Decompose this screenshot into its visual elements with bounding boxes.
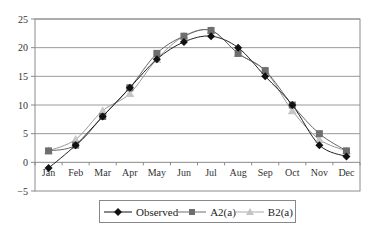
y-tick-label: 0 bbox=[23, 157, 28, 168]
y-tick-label: 5 bbox=[23, 128, 28, 139]
y-tick-label: 20 bbox=[18, 42, 28, 53]
x-tick-label: Aug bbox=[230, 167, 247, 178]
data-point bbox=[45, 147, 52, 154]
y-tick-label: 25 bbox=[18, 14, 28, 25]
x-tick-label: Sep bbox=[258, 167, 273, 178]
x-tick-label: Jun bbox=[177, 167, 191, 178]
x-tick-label: Dec bbox=[338, 167, 355, 178]
x-tick-label: Mar bbox=[94, 167, 111, 178]
y-tick-label: 10 bbox=[18, 100, 28, 111]
series-observed bbox=[45, 32, 351, 172]
x-tick-label: Apr bbox=[122, 167, 138, 178]
legend-item-a2a: A2(a) bbox=[178, 206, 236, 218]
legend-label: B2(a) bbox=[268, 206, 293, 218]
y-tick-label: −5 bbox=[17, 186, 28, 197]
series-b2-a- bbox=[44, 26, 351, 154]
x-tick-label: Oct bbox=[285, 167, 300, 178]
x-tick-label: May bbox=[148, 167, 166, 178]
x-tick-label: Feb bbox=[68, 167, 83, 178]
data-point bbox=[316, 130, 323, 137]
x-tick-label: Nov bbox=[311, 167, 328, 178]
legend-item-observed: Observed bbox=[104, 206, 178, 218]
triangle-marker-icon bbox=[236, 207, 264, 217]
chart-legend: Observed A2(a) B2(a) bbox=[99, 200, 296, 223]
diamond-marker-icon bbox=[104, 207, 132, 217]
legend-item-b2a: B2(a) bbox=[236, 206, 293, 218]
legend-label: A2(a) bbox=[210, 206, 236, 218]
x-tick-label: Jul bbox=[205, 167, 217, 178]
square-marker-icon bbox=[178, 207, 206, 217]
legend-label: Observed bbox=[136, 206, 178, 218]
series-a2-a- bbox=[45, 27, 350, 154]
y-tick-label: 15 bbox=[18, 71, 28, 82]
